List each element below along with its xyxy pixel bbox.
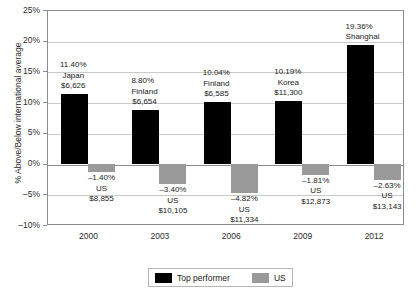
bar-label-line: US	[215, 205, 273, 216]
bar-label-line: –1.81%	[287, 176, 345, 187]
legend-swatch-us	[252, 273, 269, 283]
bar-top-performer	[275, 101, 302, 164]
x-axis-tick-label: 2003	[124, 231, 195, 241]
bar-label-line: 10.19%	[274, 67, 302, 78]
bar-label-line: 10.04%	[203, 68, 230, 79]
bar-us	[231, 164, 258, 194]
y-axis-tick-mark	[43, 133, 47, 134]
bar-top-performer	[204, 102, 231, 164]
x-axis-tick-label: 2006	[196, 231, 267, 241]
legend-swatch-top-performer	[155, 273, 172, 283]
bar-label-top-performer: 10.04%Finland$6,585	[203, 68, 230, 100]
bar-label-top-performer: 19.36%Shanghai	[346, 22, 380, 43]
y-axis-tick-mark	[43, 164, 47, 165]
bar-label-line: US	[358, 191, 416, 202]
bar-label-line: Finland	[203, 79, 230, 90]
bar-us	[88, 164, 115, 173]
bar-label-us: –1.81%US$12,873	[287, 176, 345, 208]
chart-container: 25%20%15%10%5%0%–5%–10% % Above/Below in…	[0, 0, 416, 290]
bar-label-line: $10,105	[144, 206, 202, 217]
bar-label-top-performer: 10.19%Korea$11,300	[274, 67, 302, 99]
bar-label-line: $11,300	[274, 88, 302, 99]
chart-title	[47, 0, 404, 4]
bar-label-line: 8.80%	[131, 76, 157, 87]
bar-label-line: 19.36%	[346, 22, 380, 33]
x-axis-tick-label: 2012	[339, 231, 410, 241]
bar-label-line: $13,143	[358, 202, 416, 213]
bar-label-line: $6,626	[60, 81, 87, 92]
bar-us	[302, 164, 329, 175]
bar-label-us: –1.40%US$8,855	[73, 173, 131, 205]
bar-top-performer	[347, 45, 374, 164]
bar-label-line: $8,855	[73, 194, 131, 205]
bar-label-line: $6,654	[131, 97, 157, 108]
bar-label-line: –4.82%	[215, 194, 273, 205]
chart-legend: Top performer US	[148, 268, 293, 287]
bar-top-performer	[61, 94, 88, 164]
bar-top-performer	[132, 110, 159, 164]
x-axis-tick-label: 2009	[267, 231, 338, 241]
bar-us	[159, 164, 186, 185]
bar-label-line: Japan	[60, 71, 87, 82]
y-axis-label: % Above/Below international average	[13, 3, 23, 223]
bar-label-line: $11,334	[215, 215, 273, 226]
bar-label-line: $6,585	[203, 89, 230, 100]
y-axis-tick-mark	[43, 10, 47, 11]
bar-label-line: US	[144, 196, 202, 207]
bar-label-line: Korea	[274, 78, 302, 89]
bar-label-line: US	[287, 186, 345, 197]
bar-label-line: Finland	[131, 87, 157, 98]
y-axis-tick-mark	[43, 71, 47, 72]
bar-label-top-performer: 11.40%Japan$6,626	[60, 60, 87, 92]
bar-label-line: Shanghai	[346, 32, 380, 43]
bar-label-line: –2.63%	[358, 181, 416, 192]
bar-label-top-performer: 8.80%Finland$6,654	[131, 76, 157, 108]
x-axis-tick-label: 2000	[53, 231, 124, 241]
bar-label-line: 11.40%	[60, 60, 87, 71]
bar-label-line: –3.40%	[144, 185, 202, 196]
legend-label-us: US	[274, 273, 286, 283]
bar-us	[374, 164, 401, 180]
bar-label-line: US	[73, 184, 131, 195]
bar-label-us: –4.82%US$11,334	[215, 194, 273, 226]
y-axis-tick-mark	[43, 194, 47, 195]
bar-label-line: $12,873	[287, 197, 345, 208]
y-axis-tick-mark	[43, 225, 47, 226]
y-axis-tick-mark	[43, 102, 47, 103]
bar-label-us: –3.40%US$10,105	[144, 185, 202, 217]
legend-label-top-performer: Top performer	[177, 273, 230, 283]
bar-label-us: –2.63%US$13,143	[358, 181, 416, 213]
bar-label-line: –1.40%	[73, 173, 131, 184]
y-axis-tick-mark	[43, 41, 47, 42]
